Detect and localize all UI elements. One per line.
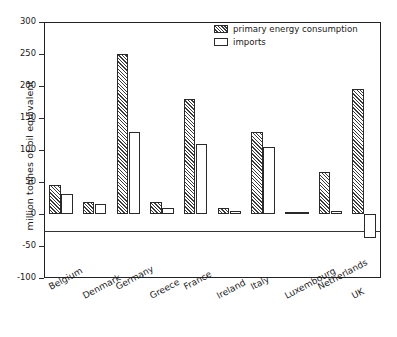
- bars-layer: [44, 22, 381, 278]
- y-tick-label: 150: [20, 112, 36, 122]
- bar-denmark-consumption: [83, 202, 95, 214]
- bar-netherlands-imports: [331, 211, 343, 214]
- bar-france-consumption: [184, 99, 196, 214]
- bar-italy-consumption: [251, 132, 263, 214]
- bar-uk-consumption: [352, 89, 364, 214]
- bar-netherlands-consumption: [319, 172, 331, 214]
- y-tick-label: 50: [25, 176, 36, 186]
- bar-greece-imports: [162, 208, 174, 214]
- y-tick-label: -50: [22, 240, 36, 250]
- bar-france-imports: [196, 144, 208, 214]
- y-tick-label: -100: [17, 272, 36, 282]
- y-axis-title: million tonnes of oil equivalent: [24, 41, 35, 271]
- bar-chart: million tonnes of oil equivalent 3002502…: [0, 0, 397, 337]
- bar-uk-imports: [364, 214, 376, 238]
- empty-swatch: [214, 38, 228, 46]
- bar-luxembourg-imports: [297, 212, 309, 214]
- bar-luxembourg-consumption: [285, 212, 297, 214]
- bar-ireland-consumption: [218, 208, 230, 214]
- x-axis-label-ireland: Ireland: [215, 277, 247, 300]
- legend-item: imports: [214, 37, 358, 47]
- bar-italy-imports: [263, 147, 275, 214]
- legend-label: primary energy consumption: [233, 24, 358, 34]
- hatched-swatch: [214, 25, 228, 33]
- legend-label: imports: [233, 37, 266, 47]
- bar-belgium-imports: [61, 194, 73, 214]
- bar-germany-consumption: [117, 54, 129, 214]
- x-axis-label-uk: UK: [350, 286, 366, 301]
- bar-germany-imports: [129, 132, 141, 214]
- y-tick-label: 250: [20, 48, 36, 58]
- bar-greece-consumption: [150, 202, 162, 214]
- y-tick-label: 300: [20, 16, 36, 26]
- chart-legend: primary energy consumptionimports: [214, 24, 358, 50]
- y-tick-label: 0: [31, 208, 36, 218]
- y-tick-label: 200: [20, 80, 36, 90]
- bar-ireland-imports: [230, 211, 242, 214]
- bar-belgium-consumption: [49, 185, 61, 214]
- bar-denmark-imports: [95, 204, 107, 214]
- x-axis-label-greece: Greece: [148, 277, 181, 301]
- legend-item: primary energy consumption: [214, 24, 358, 34]
- y-tick-label: 100: [20, 144, 36, 154]
